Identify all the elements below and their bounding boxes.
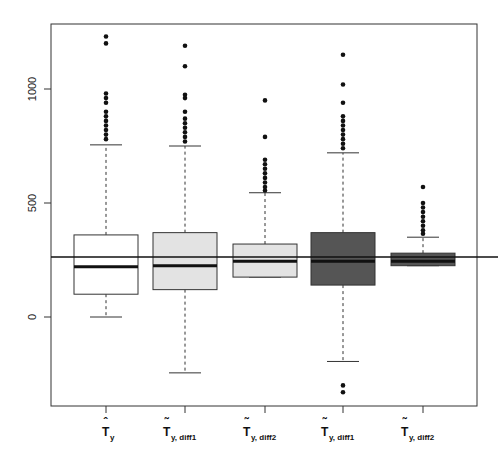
outlier-point	[183, 125, 188, 130]
box-4	[311, 53, 375, 395]
boxes	[74, 34, 455, 394]
outlier-point	[341, 114, 346, 119]
box-2	[153, 43, 217, 372]
x-category-label: Ty, diff1˜	[321, 416, 355, 442]
outlier-point	[263, 157, 268, 162]
outlier-point	[104, 114, 109, 119]
outlier-point	[341, 128, 346, 133]
outlier-point	[341, 123, 346, 128]
box-1	[74, 34, 138, 317]
outlier-point	[104, 123, 109, 128]
label-subscript: y, diff2	[409, 433, 435, 442]
outlier-point	[263, 135, 268, 140]
outlier-point	[421, 205, 426, 210]
outlier-point	[263, 188, 268, 193]
outlier-point	[421, 201, 426, 206]
label-subscript: y, diff1	[329, 433, 355, 442]
outlier-point	[263, 176, 268, 181]
outlier-point	[183, 135, 188, 140]
outlier-point	[341, 82, 346, 87]
iqr-box	[74, 235, 138, 294]
x-category-label: Ty, diff1˜	[163, 416, 197, 442]
outlier-point	[421, 219, 426, 224]
outlier-point	[183, 139, 188, 144]
outlier-point	[104, 128, 109, 133]
plot-area	[51, 24, 477, 406]
y-tick-label: 0	[26, 314, 38, 320]
outlier-point	[341, 383, 346, 388]
box-5	[391, 185, 455, 266]
outlier-point	[341, 146, 346, 151]
iqr-box	[391, 253, 455, 266]
outlier-point	[263, 98, 268, 103]
outlier-point	[183, 110, 188, 115]
outlier-point	[104, 132, 109, 137]
outlier-point	[421, 210, 426, 215]
plot-border	[51, 24, 477, 406]
outlier-point	[183, 116, 188, 121]
iqr-box	[153, 233, 217, 290]
outlier-point	[183, 130, 188, 135]
label-subscript: y	[110, 433, 115, 442]
outlier-point	[183, 43, 188, 48]
outlier-point	[104, 110, 109, 115]
outlier-point	[104, 119, 109, 124]
y-tick-label: 500	[26, 194, 38, 212]
outlier-point	[341, 119, 346, 124]
outlier-point	[341, 132, 346, 137]
outlier-point	[104, 34, 109, 39]
x-category-label: Ty, diff2˜	[243, 416, 277, 442]
x-category-label: Ty, diff2˜	[401, 416, 435, 442]
outlier-point	[341, 390, 346, 395]
label-subscript: y, diff2	[251, 433, 277, 442]
boxplot-chart: 05001000 TyˆTy, diff1˜Ty, diff2˜Ty, diff…	[0, 0, 498, 450]
box-3	[233, 98, 297, 277]
outlier-point	[263, 171, 268, 176]
outlier-point	[183, 121, 188, 126]
outlier-point	[104, 137, 109, 142]
outlier-point	[341, 137, 346, 142]
y-axis: 05001000	[26, 77, 51, 320]
outlier-point	[263, 167, 268, 172]
iqr-box	[311, 233, 375, 285]
outlier-point	[341, 141, 346, 146]
outlier-point	[104, 91, 109, 96]
outlier-point	[104, 96, 109, 101]
x-category-label: Tyˆ	[102, 416, 115, 442]
outlier-point	[421, 224, 426, 229]
label-subscript: y, diff1	[171, 433, 197, 442]
y-tick-label: 1000	[26, 77, 38, 101]
outlier-point	[263, 162, 268, 167]
x-axis: TyˆTy, diff1˜Ty, diff2˜Ty, diff1˜Ty, dif…	[102, 406, 435, 442]
outlier-point	[183, 64, 188, 69]
outlier-point	[183, 96, 188, 101]
outlier-point	[421, 214, 426, 219]
outlier-point	[104, 41, 109, 46]
outlier-point	[104, 100, 109, 105]
outlier-point	[341, 53, 346, 58]
outlier-point	[421, 185, 426, 190]
outlier-point	[263, 180, 268, 185]
outlier-point	[421, 231, 426, 236]
outlier-point	[341, 100, 346, 105]
